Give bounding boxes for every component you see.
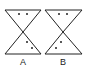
label-b: B <box>60 57 66 67</box>
hourglass-a-dots <box>18 13 33 49</box>
hourglass-a <box>5 10 41 54</box>
hourglass-diagram: A B <box>0 0 87 68</box>
hourglass-b <box>45 10 82 54</box>
label-a: A <box>20 57 26 67</box>
hourglass-b-dots <box>55 13 68 49</box>
